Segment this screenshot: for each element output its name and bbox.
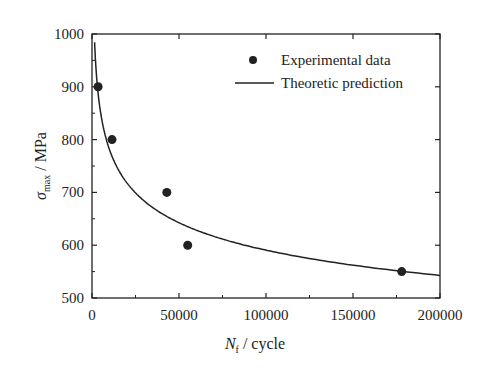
legend: Experimental data Theoretic prediction xyxy=(235,52,404,91)
experimental-data-point xyxy=(94,82,103,91)
y-tick-label: 700 xyxy=(62,184,85,200)
experimental-data-point xyxy=(183,241,192,250)
x-tick-label: 100000 xyxy=(244,307,289,323)
x-tick-label: 150000 xyxy=(331,307,376,323)
y-tick-label: 900 xyxy=(62,79,85,95)
chart: 0500001000001500002000005006007008009001… xyxy=(0,0,485,371)
chart-svg: 0500001000001500002000005006007008009001… xyxy=(0,0,485,371)
experimental-data-point xyxy=(108,135,117,144)
y-tick-label: 500 xyxy=(62,290,85,306)
axes: 0500001000001500002000005006007008009001… xyxy=(54,26,463,323)
y-tick-label: 1000 xyxy=(54,26,84,42)
legend-label-experimental: Experimental data xyxy=(281,52,391,68)
experimental-data-point xyxy=(397,267,406,276)
legend-point-marker xyxy=(249,56,257,64)
x-tick-label: 200000 xyxy=(418,307,463,323)
x-tick-label: 50000 xyxy=(160,307,198,323)
y-axis-label: σmax / MPa xyxy=(32,132,52,200)
plot-frame xyxy=(92,34,440,298)
legend-label-theoretic: Theoretic prediction xyxy=(281,75,404,91)
experimental-data-point xyxy=(162,188,171,197)
x-axis-label: Nf / cycle xyxy=(224,335,285,355)
y-tick-label: 600 xyxy=(62,237,85,253)
x-tick-label: 0 xyxy=(88,307,96,323)
y-tick-label: 800 xyxy=(62,132,85,148)
